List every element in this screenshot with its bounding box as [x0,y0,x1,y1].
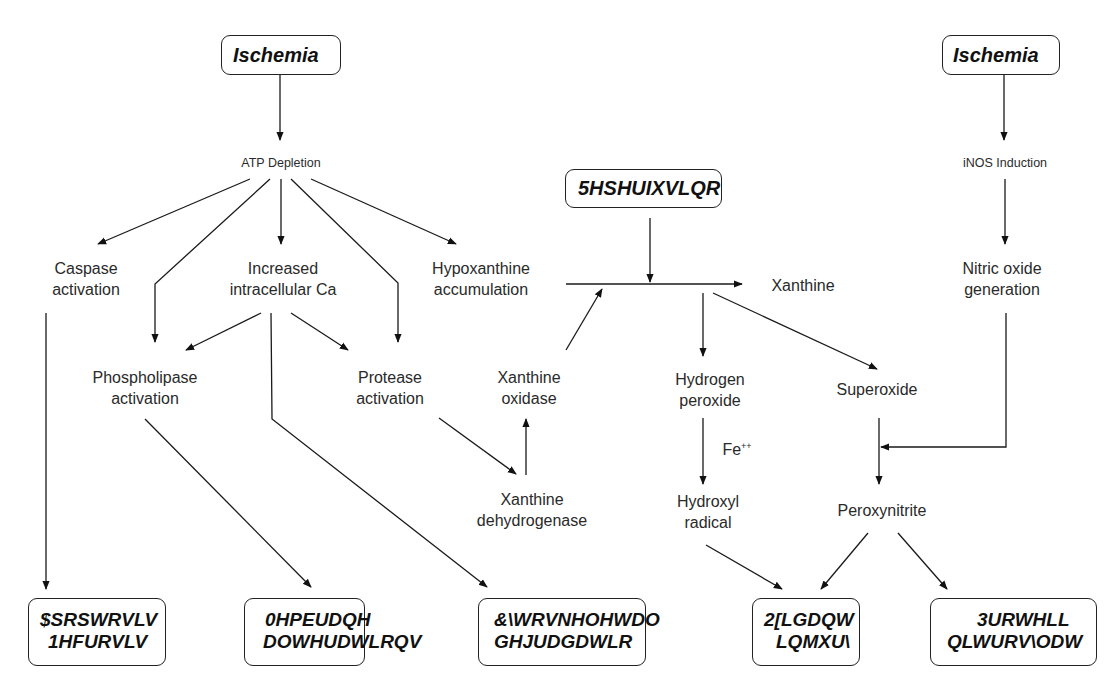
increased-ca-line-1: Increased [230,258,337,279]
protease-line-1: Protease [356,367,424,388]
phospholipase-line-1: Phospholipase [93,367,198,388]
inos-induction-label: iNOS Induction [963,155,1047,171]
outcome-box-3-line-1: &\WRVNHOHWDO [494,609,660,631]
hypoxanthine-accumulation-label: Hypoxanthine accumulation [432,258,530,300]
xdh-line-1: Xanthine [477,489,587,510]
hydrogen-peroxide-line-2: peroxide [675,390,744,411]
nitric-oxide-line-1: Nitric oxide [962,258,1041,279]
outcome-box-2-line-2: DOWHUDWLRQV [263,631,421,653]
reperfusion-box-label: 5HSHUIXVLQR [578,176,720,200]
ischemia-box-right-label: Ischemia [953,43,1039,67]
connector-arrows [0,0,1119,694]
phospholipase-activation-label: Phospholipase activation [93,367,198,409]
hypoxanthine-line-2: accumulation [432,279,530,300]
peroxynitrite-label: Peroxynitrite [838,500,927,521]
caspase-activation-label: Caspase activation [52,258,120,300]
increased-intracellular-ca-label: Increased intracellular Ca [230,258,337,300]
outcome-box-1-text: $SRSWRVLV 1HFURVLV [40,609,157,653]
hydrogen-peroxide-line-1: Hydrogen [675,369,744,390]
xanthine-oxidase-line-1: Xanthine [497,367,560,388]
outcome-box-3-line-2: GHJUDGDWLR [494,631,660,653]
atp-depletion-label: ATP Depletion [241,155,320,171]
outcome-box-2-line-1: 0HPEUDQH [263,609,421,631]
xanthine-label: Xanthine [771,275,834,296]
fe-text: Fe [722,441,741,458]
xanthine-oxidase-label: Xanthine oxidase [497,367,560,409]
hydrogen-peroxide-label: Hydrogen peroxide [675,369,744,411]
xanthine-dehydrogenase-label: Xanthine dehydrogenase [477,489,587,531]
nitric-oxide-generation-label: Nitric oxide generation [962,258,1041,300]
protease-line-2: activation [356,388,424,409]
nitric-oxide-line-2: generation [962,279,1041,300]
ischemia-reperfusion-pathway-diagram: Ischemia 5HSHUIXVLQR Ischemia ATP Deplet… [0,0,1119,694]
superoxide-label: Superoxide [837,379,918,400]
hypoxanthine-line-1: Hypoxanthine [432,258,530,279]
xanthine-oxidase-line-2: oxidase [497,388,560,409]
outcome-box-5-text: 3URWHLL QLWURV\ODW [947,609,1082,653]
outcome-box-1-line-1: $SRSWRVLV [40,609,157,631]
outcome-box-4-line-2: LQMXU\ [764,631,854,653]
hydroxyl-radical-label: Hydroxyl radical [677,491,739,533]
outcome-box-3-text: &\WRVNHOHWDO GHJUDGDWLR [494,609,660,653]
outcome-box-4-line-1: 2[LGDQW [764,609,854,631]
caspase-line-2: activation [52,279,120,300]
xdh-line-2: dehydrogenase [477,510,587,531]
ischemia-box-left-label: Ischemia [233,43,319,67]
fe-catalyst-label: Fe++ [722,436,751,460]
hydroxyl-line-2: radical [677,512,739,533]
outcome-box-2-text: 0HPEUDQH DOWHUDWLRQV [263,609,421,653]
caspase-line-1: Caspase [52,258,120,279]
outcome-box-5-line-1: 3URWHLL [947,609,1082,631]
outcome-box-4-text: 2[LGDQW LQMXU\ [764,609,854,653]
outcome-box-1-line-2: 1HFURVLV [40,631,157,653]
phospholipase-line-2: activation [93,388,198,409]
fe-charge: ++ [741,441,752,451]
outcome-box-5-line-2: QLWURV\ODW [947,631,1082,653]
protease-activation-label: Protease activation [356,367,424,409]
hydroxyl-line-1: Hydroxyl [677,491,739,512]
increased-ca-line-2: intracellular Ca [230,279,337,300]
